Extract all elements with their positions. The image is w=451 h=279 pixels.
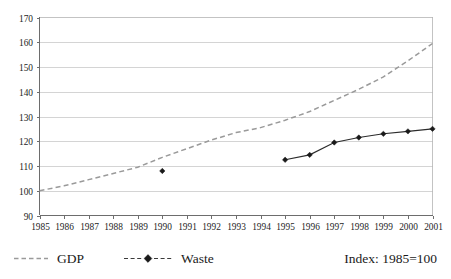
x-tick-label: 1998 [350,222,369,232]
data-point-waste [332,140,337,145]
x-tick-label: 1991 [178,222,197,232]
data-point-waste [160,168,165,173]
x-tick-label: 1986 [55,222,74,232]
legend: GDP Waste [14,251,214,266]
data-point-waste [356,135,361,140]
y-tick-label: 110 [19,162,33,172]
x-tick-label: 1995 [276,222,295,232]
x-tick-label: 1997 [325,222,344,232]
legend-label-waste: Waste [181,251,214,266]
y-axis-tick-labels: 90100110120130140150160170 [19,14,33,222]
data-point-waste [307,152,312,157]
x-tick-label: 1993 [227,222,246,232]
data-point-waste [430,126,435,131]
x-tick-label: 1999 [374,222,393,232]
y-tick-label: 150 [19,63,33,73]
index-note: Index: 1985=100 [344,251,437,266]
y-tick-label: 170 [19,14,33,24]
y-tick-label: 160 [19,38,33,48]
x-tick-label: 2000 [399,222,418,232]
x-tick-label: 1996 [301,222,320,232]
x-tick-label: 1988 [104,222,123,232]
x-axis-tick-labels: 1985198619871988198919901991199219931994… [31,222,443,232]
y-tick-label: 90 [24,212,34,222]
x-tick-label: 1994 [252,222,271,232]
line-chart: 90100110120130140150160170 1985198619871… [0,0,451,279]
legend-diamond-icon [144,255,152,263]
x-tick-label: 1989 [129,222,148,232]
data-point-waste [381,131,386,136]
x-tick-label: 2001 [424,222,443,232]
y-tick-label: 140 [19,88,33,98]
x-tick-label: 1992 [202,222,221,232]
y-tick-label: 100 [19,187,33,197]
x-tick-label: 1990 [153,222,172,232]
x-tick-label: 1985 [31,222,50,232]
gridlines [40,43,433,192]
data-point-waste [405,129,410,134]
legend-label-gdp: GDP [57,251,84,266]
x-tick-label: 1987 [80,222,99,232]
y-tick-label: 130 [19,113,33,123]
chart-container: 90100110120130140150160170 1985198619871… [0,0,451,279]
data-point-waste [282,157,287,162]
y-tick-label: 120 [19,137,33,147]
